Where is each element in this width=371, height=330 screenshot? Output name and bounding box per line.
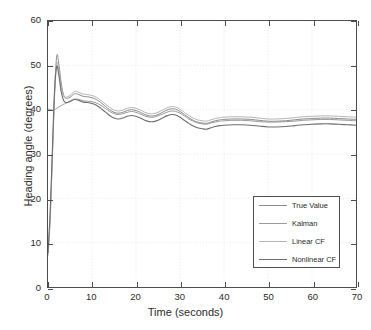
y-axis-title: Heading angle (degrees) bbox=[22, 56, 34, 236]
x-tick bbox=[225, 282, 226, 287]
legend-label: True Value bbox=[292, 202, 328, 210]
x-tick-label: 60 bbox=[298, 292, 328, 302]
legend-swatch-icon bbox=[259, 256, 287, 264]
legend-item-2[interactable]: Linear CF bbox=[254, 233, 339, 251]
y-tick bbox=[351, 244, 356, 245]
legend-swatch-icon bbox=[259, 238, 287, 246]
chart-figure: 0102030405060 010203040506070 Time (seco… bbox=[0, 0, 371, 330]
x-tick bbox=[48, 21, 49, 26]
x-tick bbox=[358, 21, 359, 26]
y-tick bbox=[48, 200, 53, 201]
x-tick bbox=[48, 282, 49, 287]
legend-label: Nonlinear CF bbox=[292, 256, 336, 264]
x-tick-label: 0 bbox=[32, 292, 62, 302]
x-tick bbox=[225, 21, 226, 26]
y-tick-label: 60 bbox=[8, 15, 41, 25]
x-tick-label: 30 bbox=[165, 292, 195, 302]
y-tick bbox=[351, 66, 356, 67]
y-tick bbox=[351, 155, 356, 156]
y-tick bbox=[48, 66, 53, 67]
x-tick bbox=[181, 21, 182, 26]
y-tick bbox=[351, 110, 356, 111]
y-tick bbox=[48, 289, 53, 290]
x-tick bbox=[314, 282, 315, 287]
legend-swatch-icon bbox=[259, 202, 287, 210]
y-tick-label: 10 bbox=[8, 238, 41, 248]
x-axis-title: Time (seconds) bbox=[0, 306, 371, 318]
y-tick bbox=[48, 110, 53, 111]
x-tick-label: 10 bbox=[76, 292, 106, 302]
x-tick bbox=[181, 282, 182, 287]
y-tick bbox=[351, 289, 356, 290]
legend-item-3[interactable]: Nonlinear CF bbox=[254, 251, 339, 269]
legend-item-0[interactable]: True Value bbox=[254, 197, 339, 215]
y-tick bbox=[351, 21, 356, 22]
x-tick bbox=[92, 282, 93, 287]
x-tick-label: 20 bbox=[121, 292, 151, 302]
legend-item-1[interactable]: Kalman bbox=[254, 215, 339, 233]
x-tick bbox=[269, 282, 270, 287]
legend-swatch-icon bbox=[259, 220, 287, 228]
x-tick-label: 50 bbox=[253, 292, 283, 302]
y-tick bbox=[48, 244, 53, 245]
legend-box: True ValueKalmanLinear CFNonlinear CF bbox=[253, 196, 340, 268]
y-tick bbox=[351, 200, 356, 201]
x-tick-label: 40 bbox=[209, 292, 239, 302]
x-tick bbox=[358, 282, 359, 287]
legend-label: Linear CF bbox=[292, 238, 325, 246]
x-tick-label: 70 bbox=[342, 292, 371, 302]
legend-label: Kalman bbox=[292, 220, 317, 228]
x-tick bbox=[137, 282, 138, 287]
x-tick bbox=[269, 21, 270, 26]
x-tick bbox=[137, 21, 138, 26]
x-tick bbox=[92, 21, 93, 26]
y-tick bbox=[48, 155, 53, 156]
x-tick bbox=[314, 21, 315, 26]
